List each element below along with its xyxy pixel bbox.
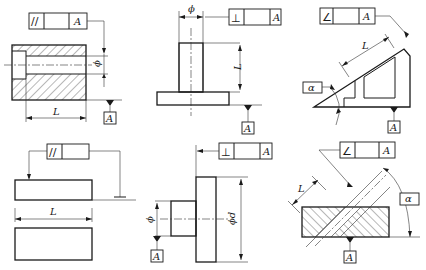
svg-text:A: A xyxy=(243,123,251,134)
angularity-symbol-icon: ∠ xyxy=(342,145,352,158)
svg-text:A: A xyxy=(262,146,270,157)
svg-text:ϕ: ϕ xyxy=(91,60,102,67)
parallelism-symbol-icon: // xyxy=(31,15,39,28)
svg-text:ϕ: ϕ xyxy=(188,3,195,14)
svg-text:L: L xyxy=(297,183,305,194)
svg-text:ϕ: ϕ xyxy=(144,216,155,223)
svg-text:A: A xyxy=(382,145,390,156)
svg-text:A: A xyxy=(272,12,280,23)
tolerance-frame: ∠ A xyxy=(320,8,375,24)
tolerance-frame: ⊥ A xyxy=(219,143,272,159)
svg-text:α: α xyxy=(308,82,315,93)
svg-text:A: A xyxy=(389,122,397,133)
svg-text:L: L xyxy=(232,63,243,71)
tolerance-frame: // xyxy=(47,144,89,159)
tolerance-diagram: // A ϕ A L xyxy=(0,0,426,270)
perpendicularity-symbol-icon: ⊥ xyxy=(221,146,231,159)
datum-label: A xyxy=(73,16,81,27)
parallelism-symbol-icon: // xyxy=(49,146,57,159)
figure-6-angularity-hole: ∠ A L α A xyxy=(288,142,420,263)
svg-text:A: A xyxy=(152,251,160,262)
svg-text:A: A xyxy=(362,11,370,22)
svg-text:L: L xyxy=(49,206,57,217)
svg-text:α: α xyxy=(405,193,412,204)
figure-4-parallelism-surface: // L xyxy=(15,144,136,260)
figure-2-perpendicularity-shaft: ⊥ A ϕ L A xyxy=(157,3,281,134)
tolerance-frame: // A xyxy=(29,13,87,29)
svg-text:L: L xyxy=(361,40,369,51)
angularity-symbol-icon: ∠ xyxy=(322,11,332,24)
tolerance-frame: ∠ A xyxy=(340,142,395,158)
figure-1-parallelism-hole: // A ϕ A L xyxy=(4,13,122,124)
svg-text:A: A xyxy=(345,252,353,263)
perpendicularity-symbol-icon: ⊥ xyxy=(231,12,241,25)
figure-3-angularity-surface: ∠ A L α A xyxy=(303,8,410,133)
svg-text:ϕd: ϕd xyxy=(226,212,237,225)
length-label: L xyxy=(52,106,60,117)
datum-a-label: A xyxy=(105,113,113,124)
figure-5-perpendicularity-flange: ⊥ A ϕd ϕ A xyxy=(144,143,272,262)
tolerance-frame: ⊥ A xyxy=(229,9,281,25)
